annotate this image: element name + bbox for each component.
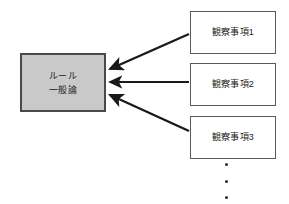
observation-node-2[interactable]: 観察事項2	[190, 63, 276, 106]
observation-node-3[interactable]: 観察事項3	[190, 116, 276, 159]
observation-node-1[interactable]: 観察事項1	[190, 11, 276, 54]
observation-label-3: 観察事項3	[212, 131, 254, 144]
ellipsis-dot-2	[225, 180, 228, 183]
observation-label-1: 観察事項1	[212, 26, 254, 39]
ellipsis-dot-1	[225, 163, 228, 166]
observation-label-2: 観察事項2	[212, 78, 254, 91]
conclusion-label-line2: 一般論	[49, 83, 77, 97]
arrow-observation-1-to-conclusion	[110, 34, 189, 69]
conclusion-label-line1: ルール	[49, 69, 77, 83]
arrow-observation-3-to-conclusion	[110, 95, 189, 131]
conclusion-node[interactable]: ルール 一般論	[20, 53, 106, 112]
diagram-canvas: ルール 一般論 観察事項1 観察事項2 観察事項3	[0, 0, 289, 204]
ellipsis-dot-3	[225, 196, 228, 199]
vertical-ellipsis-icon	[218, 163, 234, 199]
